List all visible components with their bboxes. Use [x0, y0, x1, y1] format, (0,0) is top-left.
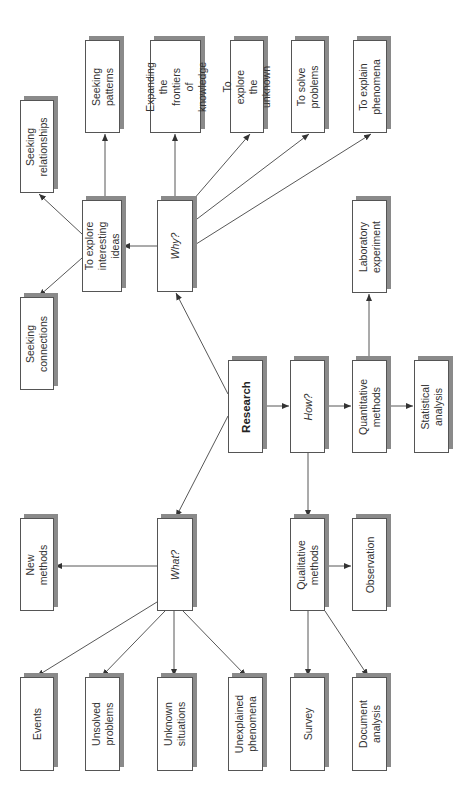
node-label: How?: [301, 393, 314, 420]
node-box: Seeking connections: [20, 297, 54, 390]
node-box: What?: [157, 518, 193, 611]
node-what: What?: [157, 518, 193, 611]
node-label: To explore interesting ideas: [83, 222, 122, 270]
research-mind-map: ResearchWhy?How?What?To explore interest…: [0, 0, 463, 799]
node-observation: Observation: [352, 518, 387, 611]
node-label: To solve problems: [295, 65, 321, 108]
node-solve-problems: To solve problems: [291, 40, 325, 133]
node-explain-phenomena: To explain phenomena: [353, 40, 387, 133]
node-unexplained-phenomena: Unexplained phenomena: [228, 677, 263, 771]
node-label: Unsolved problems: [90, 702, 116, 746]
node-label: Seeking relationships: [24, 117, 50, 176]
node-label: Seeking patterns: [90, 68, 116, 106]
node-label: Qualitative methods: [295, 540, 321, 590]
node-how: How?: [290, 360, 325, 453]
node-survey: Survey: [290, 677, 325, 771]
arrow-research-to-why: [176, 293, 228, 394]
node-box: Expanding the frontiers of knowledge: [150, 40, 201, 133]
node-new-methods: New methods: [20, 518, 54, 611]
node-label: Research: [239, 381, 252, 433]
node-box: Unsolved problems: [85, 677, 120, 771]
node-box: Survey: [290, 677, 325, 771]
node-label: To explore the unknown: [221, 65, 273, 107]
node-box: Qualitative methods: [290, 518, 325, 611]
node-box: Laboratory experiment: [352, 200, 387, 293]
arrow-research-to-what: [176, 416, 228, 517]
node-label: Survey: [301, 708, 314, 741]
arrow-what-to-unsolved-problems: [102, 611, 165, 676]
node-box: Quantitative methods: [352, 360, 387, 453]
node-label: Unknown situations: [162, 702, 188, 746]
node-box: To explore interesting ideas: [82, 200, 122, 292]
node-explore-unknown: To explore the unknown: [230, 40, 264, 133]
node-box: Seeking relationships: [20, 100, 54, 193]
node-research: Research: [228, 360, 263, 453]
node-label: Expanding the frontiers of knowledge: [143, 61, 208, 111]
node-label: Events: [31, 708, 44, 740]
node-quantitative: Quantitative methods: [352, 360, 387, 453]
node-box: Seeking patterns: [85, 40, 120, 133]
node-lab-experiment: Laboratory experiment: [352, 200, 387, 293]
node-box: To explain phenomena: [353, 40, 387, 133]
node-statistical: Statistical analysis: [414, 360, 449, 453]
node-box: To explore the unknown: [230, 40, 264, 133]
node-box: Document analysis: [352, 677, 387, 771]
arrow-what-to-unexplained-phenomena: [183, 611, 246, 676]
node-qualitative: Qualitative methods: [290, 518, 325, 611]
arrow-qualitative-to-document-analysis: [325, 611, 368, 676]
node-unsolved-problems: Unsolved problems: [85, 677, 120, 771]
node-label: Why?: [169, 233, 182, 260]
arrow-what-to-events: [37, 602, 157, 676]
node-box: Observation: [352, 518, 387, 611]
node-label: What?: [169, 549, 182, 579]
node-document-analysis: Document analysis: [352, 677, 387, 771]
node-box: Research: [228, 360, 263, 453]
node-label: To explain phenomena: [357, 59, 383, 114]
node-box: Unexplained phenomena: [228, 677, 263, 771]
node-why: Why?: [157, 200, 193, 292]
node-expanding-frontiers: Expanding the frontiers of knowledge: [150, 40, 201, 133]
node-seeking-connections: Seeking connections: [20, 297, 54, 390]
node-events: Events: [20, 677, 54, 771]
node-unknown-situations: Unknown situations: [157, 677, 193, 771]
node-label: Laboratory experiment: [357, 221, 383, 273]
node-label: Document analysis: [357, 700, 383, 748]
node-label: Observation: [363, 536, 376, 593]
arrow-why-to-explain-phenomena: [193, 134, 371, 246]
arrow-why-to-solve-problems: [193, 134, 309, 222]
node-label: Quantitative methods: [357, 378, 383, 434]
node-seeking-relationships: Seeking relationships: [20, 100, 54, 193]
node-label: New methods: [24, 544, 50, 584]
arrow-why-to-explore-unknown: [193, 134, 250, 200]
node-label: Statistical analysis: [419, 384, 445, 429]
node-box: New methods: [20, 518, 54, 611]
node-box: Statistical analysis: [414, 360, 449, 453]
node-box: Events: [20, 677, 54, 771]
node-label: Unexplained phenomena: [233, 695, 259, 753]
node-explore-ideas: To explore interesting ideas: [82, 200, 122, 292]
node-box: Why?: [157, 200, 193, 292]
node-seeking-patterns: Seeking patterns: [85, 40, 120, 133]
node-box: To solve problems: [291, 40, 325, 133]
arrow-explore-ideas-to-seeking-connections: [39, 258, 82, 296]
node-box: Unknown situations: [157, 677, 193, 771]
node-label: Seeking connections: [24, 315, 50, 371]
arrow-explore-ideas-to-seeking-relationships: [39, 194, 82, 234]
node-box: How?: [290, 360, 325, 453]
